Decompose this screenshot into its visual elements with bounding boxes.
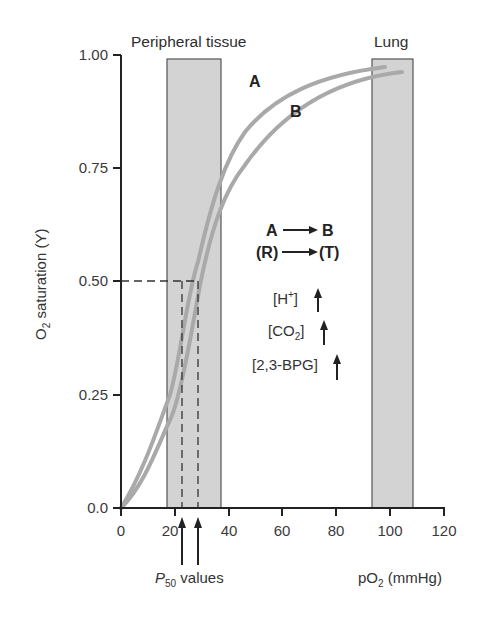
p50-a-arrowhead-icon [178,517,186,528]
x-axis-title: pO2 (mmHg) [358,569,442,589]
svg-text:0.25: 0.25 [79,386,108,403]
effector-h-plus: [H+] [273,289,298,307]
transition-arrowhead-2-icon [309,248,318,256]
curve-b [121,72,402,508]
svg-text:20: 20 [162,522,179,539]
p50-label: P50 values [155,569,224,589]
peripheral-tissue-label: Peripheral tissue [131,33,246,50]
svg-text:100: 100 [377,522,402,539]
p50-b-arrowhead-icon [194,517,202,528]
x-axis-ticks [121,508,444,516]
curve-b-label: B [290,103,302,120]
transition-to-b: B [322,222,334,239]
transition-to-t: (T) [319,244,339,261]
x-tick-labels: 0 20 40 60 80 100 120 [117,522,457,539]
transition-from-r: (R) [256,244,278,261]
svg-text:0.75: 0.75 [79,159,108,176]
effector-2-3-bpg: [2,3-BPG] [252,356,318,373]
svg-text:40: 40 [221,522,238,539]
svg-text:0.0: 0.0 [87,499,108,516]
transition-arrowhead-1-icon [309,226,318,234]
svg-text:80: 80 [328,522,345,539]
svg-text:120: 120 [431,522,456,539]
h-plus-arrowhead-icon [314,288,322,298]
bpg-arrowhead-icon [333,354,341,364]
oxygen-dissociation-chart: Peripheral tissue Lung A B 1.00 0.75 0.5… [0,0,480,622]
transition-from-a: A [266,222,278,239]
lung-region [372,59,413,508]
svg-text:1.00: 1.00 [79,46,108,63]
svg-text:0.50: 0.50 [79,272,108,289]
effector-co2: [CO2] [268,322,304,342]
svg-text:0: 0 [117,522,125,539]
svg-text:60: 60 [274,522,291,539]
y-tick-labels: 1.00 0.75 0.50 0.25 0.0 [79,46,108,516]
co2-arrowhead-icon [320,320,328,330]
y-axis-title: O2 saturation (Y) [32,229,52,340]
curve-a-label: A [249,73,261,90]
lung-label: Lung [374,33,408,50]
y-axis-ticks [113,55,121,508]
